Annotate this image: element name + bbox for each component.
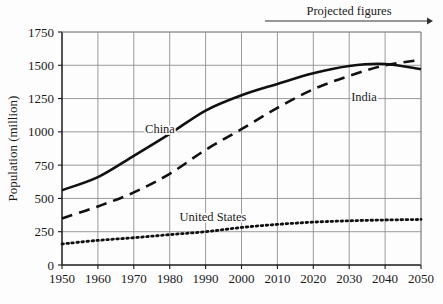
projection-arrow-head-icon [427,18,433,25]
y-axis-title-label: Population (million) [5,96,20,202]
series-label-india: India [351,90,377,104]
y-axis-tick-labels: 02505007501000125015001750 [28,25,54,273]
gridlines [62,32,421,265]
y-tick-label: 750 [35,158,55,173]
y-tick-label: 250 [35,224,55,239]
y-tick-label: 500 [35,191,55,206]
projection-annotation: Projected figures [265,4,433,24]
y-axis-title: Population (million) [5,96,20,202]
x-tick-label: 1970 [121,271,147,286]
x-tick-label: 2040 [372,271,398,286]
series-label-united-states: United States [179,210,246,224]
y-tick-label: 1000 [28,124,54,139]
y-tick-label: 1250 [28,91,54,106]
x-tick-label: 2050 [408,271,434,286]
tick-marks [58,32,421,269]
population-chart: 1950196019701980199020002010202020302040… [0,0,443,304]
series-labels: ChinaChinaIndiaIndiaUnited StatesUnited … [145,90,377,224]
x-tick-label: 1950 [49,271,75,286]
y-tick-label: 0 [48,258,55,273]
y-tick-label: 1750 [28,25,54,40]
x-tick-label: 2010 [264,271,290,286]
x-tick-label: 1990 [193,271,219,286]
x-tick-label: 2000 [229,271,255,286]
x-tick-label: 1960 [85,271,111,286]
x-tick-label: 2020 [300,271,326,286]
x-tick-label: 2030 [336,271,362,286]
chart-canvas: 1950196019701980199020002010202020302040… [0,0,443,304]
projection-annotation-label: Projected figures [306,4,391,18]
y-tick-label: 1500 [28,58,54,73]
x-axis-tick-labels: 1950196019701980199020002010202020302040… [49,271,434,286]
x-tick-label: 1980 [157,271,183,286]
series-label-china: China [145,122,175,136]
